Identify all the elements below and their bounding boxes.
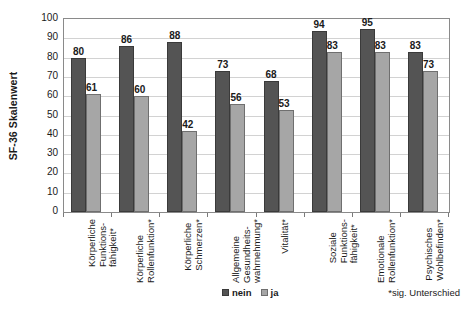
- bar-group: 6853: [257, 19, 305, 212]
- bar-nein: [167, 42, 182, 212]
- bar-ja: [230, 104, 245, 212]
- legend-label: ja: [271, 287, 279, 298]
- y-axis-tick-label: 20: [26, 167, 58, 177]
- bar-value-label: 61: [86, 83, 108, 93]
- bar-value-label: 83: [400, 41, 430, 51]
- bar-group: 8660: [112, 19, 160, 212]
- x-axis-tick-mark: [304, 213, 305, 217]
- x-axis-tick-mark: [448, 213, 449, 217]
- bar-ja: [327, 52, 342, 212]
- bar-group: 8842: [160, 19, 208, 212]
- x-axis-tick-marks: [63, 213, 450, 218]
- legend-swatch-nein: [222, 289, 229, 296]
- bar-group: 8373: [401, 19, 449, 212]
- footnote: *sig. Unterschied: [388, 287, 460, 298]
- y-axis-tick-label: 60: [26, 90, 58, 100]
- y-axis-title-text: SF-36 Skalenwert: [7, 72, 19, 161]
- x-axis-tick-mark: [352, 213, 353, 217]
- bar-nein: [408, 52, 423, 212]
- y-axis-tick-label: 30: [26, 148, 58, 158]
- x-axis-category-labels: KörperlicheFunktions-fähigkeit*Körperlic…: [63, 219, 450, 293]
- bar-value-label: 42: [182, 120, 204, 130]
- bar-group: 9483: [305, 19, 353, 212]
- bar-ja: [182, 131, 197, 212]
- y-axis-tick-label: 80: [26, 52, 58, 62]
- bars-layer: 80618660884273566853948395838373: [64, 19, 449, 212]
- legend-swatch-ja: [261, 289, 268, 296]
- bar-value-label: 60: [134, 85, 156, 95]
- x-axis-tick-mark: [159, 213, 160, 217]
- bar-ja: [86, 94, 101, 212]
- y-axis-tick-labels: 0102030405060708090100: [26, 13, 58, 219]
- x-axis-category-label: PsychischesWohlbefinden*: [387, 219, 461, 293]
- bar-value-label: 95: [352, 18, 382, 28]
- bar-value-label: 86: [112, 35, 142, 45]
- y-axis-title: SF-36 Skalenwert: [2, 18, 24, 214]
- y-axis-tick-label: 0: [26, 206, 58, 216]
- bar-ja: [375, 52, 390, 212]
- bar-value-label: 73: [423, 60, 445, 70]
- bar-nein: [312, 31, 327, 212]
- bar-value-label: 83: [327, 41, 349, 51]
- x-axis-category-label-text: PsychischesWohlbefinden*: [424, 219, 445, 281]
- bar-group: 9583: [353, 19, 401, 212]
- bar-value-label: 68: [256, 70, 286, 80]
- bar-value-label: 94: [304, 20, 334, 30]
- y-axis-tick-label: 90: [26, 32, 58, 42]
- y-axis-tick-label: 100: [26, 13, 58, 23]
- bar-nein: [215, 71, 230, 212]
- legend-item-ja: ja: [261, 287, 279, 298]
- plot-area: 80618660884273566853948395838373: [63, 18, 450, 213]
- bar-value-label: 80: [64, 47, 94, 57]
- bar-group: 8061: [64, 19, 112, 212]
- bar-group: 7356: [208, 19, 256, 212]
- x-axis-category-label-text: Vitalität*: [280, 219, 291, 254]
- legend: neinja: [222, 287, 278, 298]
- bar-value-label: 53: [279, 99, 301, 109]
- y-axis-tick-label: 70: [26, 71, 58, 81]
- x-axis-tick-mark: [111, 213, 112, 217]
- x-axis-tick-mark: [63, 213, 64, 217]
- bar-nein: [264, 81, 279, 212]
- bar-value-label: 83: [375, 41, 397, 51]
- legend-item-nein: nein: [222, 287, 252, 298]
- bar-nein: [360, 29, 375, 212]
- bar-ja: [423, 71, 438, 212]
- bar-ja: [279, 110, 294, 212]
- bar-nein: [71, 58, 86, 212]
- bar-value-label: 56: [230, 93, 252, 103]
- x-axis-tick-mark: [207, 213, 208, 217]
- x-axis-tick-mark: [256, 213, 257, 217]
- y-axis-tick-label: 50: [26, 110, 58, 120]
- y-axis-tick-label: 40: [26, 129, 58, 139]
- y-axis-tick-label: 10: [26, 187, 58, 197]
- bar-value-label: 88: [160, 31, 190, 41]
- bar-value-label: 73: [208, 60, 238, 70]
- x-axis-tick-mark: [400, 213, 401, 217]
- bar-ja: [134, 96, 149, 212]
- bar-nein: [119, 46, 134, 212]
- legend-label: nein: [232, 287, 252, 298]
